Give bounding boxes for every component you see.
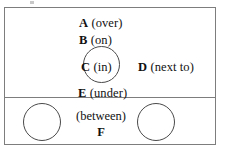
label-d-preposition: (next to) xyxy=(150,60,194,74)
label-d-tag: D xyxy=(138,60,147,74)
label-f-preposition: (between) xyxy=(67,109,135,125)
label-c-tag: C xyxy=(81,60,90,74)
label-f-tag: F xyxy=(67,125,135,141)
between-relation-panel: (between) F xyxy=(5,98,215,146)
label-a-over: A (over) xyxy=(79,17,123,30)
label-d-next-to: D (next to) xyxy=(138,61,194,74)
figure-frame: A (over) B (on) C (in) D (next to) E (un… xyxy=(4,7,216,145)
label-f-between: (between) F xyxy=(67,109,135,140)
crop-artifact xyxy=(30,1,34,4)
label-a-preposition: (over) xyxy=(91,16,122,30)
label-a-tag: A xyxy=(79,16,88,30)
label-c-in: C (in) xyxy=(81,61,112,74)
label-b-preposition: (on) xyxy=(91,33,112,47)
vertical-relations-panel: A (over) B (on) C (in) D (next to) E (un… xyxy=(5,8,215,98)
left-reference-circle-icon xyxy=(23,103,61,141)
label-b-on: B (on) xyxy=(79,34,112,47)
right-reference-circle-icon xyxy=(137,103,175,141)
label-b-tag: B xyxy=(79,33,87,47)
label-c-preposition: (in) xyxy=(93,60,111,74)
